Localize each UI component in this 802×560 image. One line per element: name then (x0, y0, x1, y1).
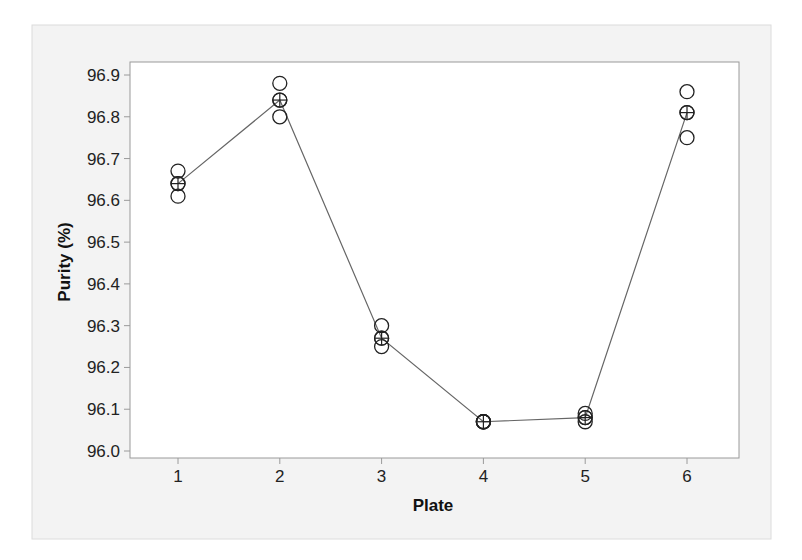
y-axis-title: Purity (%) (55, 222, 74, 301)
y-tick-label: 96.5 (87, 233, 120, 252)
x-tick-label: 1 (173, 467, 182, 486)
mean-marker (680, 106, 694, 120)
x-tick-label: 6 (682, 467, 691, 486)
y-tick-label: 96.6 (87, 191, 120, 210)
mean-marker (171, 177, 185, 191)
x-tick-label: 5 (580, 467, 589, 486)
y-tick-label: 96.9 (87, 66, 120, 85)
mean-marker (375, 331, 389, 345)
mean-marker (578, 411, 592, 425)
y-tick-label: 96.2 (87, 358, 120, 377)
x-tick-label: 3 (377, 467, 386, 486)
y-tick-label: 96.7 (87, 150, 120, 169)
x-tick-label: 4 (479, 467, 488, 486)
y-tick-label: 96.4 (87, 275, 120, 294)
mean-marker (476, 415, 490, 429)
purity-by-plate-chart: 96.096.196.296.396.496.596.696.796.896.9… (0, 0, 802, 560)
y-tick-label: 96.3 (87, 317, 120, 336)
plot-area (130, 62, 739, 458)
mean-marker (273, 93, 287, 107)
x-tick-label: 2 (275, 467, 284, 486)
y-tick-label: 96.1 (87, 400, 120, 419)
x-axis-title: Plate (413, 496, 454, 515)
y-tick-label: 96.0 (87, 442, 120, 461)
y-tick-label: 96.8 (87, 108, 120, 127)
